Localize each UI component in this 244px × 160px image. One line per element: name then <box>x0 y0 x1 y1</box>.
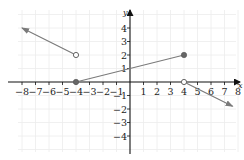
x-tick-label: 3 <box>167 86 173 97</box>
x-tick-label: −3 <box>82 86 96 97</box>
y-axis-label: y <box>122 8 128 17</box>
x-tick-label: 7 <box>221 86 227 97</box>
x-tick-label: −8 <box>15 86 29 97</box>
x-tick-label: −4 <box>69 86 83 97</box>
x-tick-label: 2 <box>154 86 160 97</box>
x-tick-label: −6 <box>42 86 56 97</box>
y-tick-label: −2 <box>113 104 127 115</box>
x-tick-label: −2 <box>96 86 110 97</box>
closed-point-marker <box>181 52 186 57</box>
y-tick-label: 4 <box>121 23 127 34</box>
closed-point-marker <box>73 79 78 84</box>
x-tick-label: −5 <box>55 86 69 97</box>
y-tick-label: 3 <box>121 36 127 47</box>
x-tick-label: 8 <box>235 86 241 97</box>
y-tick-label: 1 <box>121 63 127 74</box>
x-tick-label: −7 <box>28 86 42 97</box>
x-tick-label: 4 <box>181 86 187 97</box>
open-point-marker <box>73 52 78 57</box>
open-point-marker <box>181 79 186 84</box>
y-tick-label: −4 <box>113 131 127 142</box>
piecewise-function-graph: xy −8−7−6−5−4−3−2−112345678−4−3−2−11234 <box>0 0 244 160</box>
y-tick-label: −1 <box>113 90 127 101</box>
x-tick-label: 1 <box>140 86 146 97</box>
grid <box>18 10 238 152</box>
y-tick-label: −3 <box>113 117 127 128</box>
y-tick-label: 2 <box>121 50 127 61</box>
